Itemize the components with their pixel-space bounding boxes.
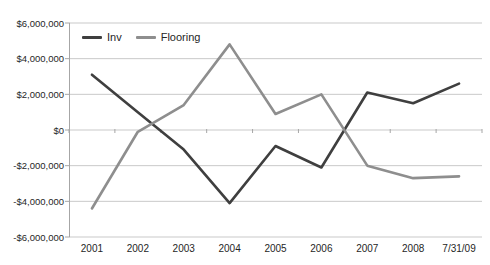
x-axis-tick-label: 2003 <box>173 243 196 254</box>
series-line-flooring <box>92 44 459 208</box>
flooring-line-swatch <box>136 36 156 39</box>
legend-label-inv: Inv <box>107 29 122 45</box>
x-axis-tick-label: 2004 <box>218 243 241 254</box>
inv-line-swatch <box>82 36 102 39</box>
legend-item-inv: Inv <box>82 29 122 45</box>
x-axis-tick-label: 2008 <box>402 243 425 254</box>
x-axis-tick-label: 2006 <box>310 243 333 254</box>
chart-legend: Inv Flooring <box>82 29 200 45</box>
line-chart: $6,000,000$4,000,000$2,000,000$0-$2,000,… <box>0 0 490 265</box>
x-axis-tick-label: 2007 <box>356 243 379 254</box>
x-axis-tick-label: 2002 <box>127 243 150 254</box>
y-axis-tick-label: $0 <box>53 125 64 136</box>
y-axis-tick-label: -$6,000,000 <box>13 232 64 243</box>
legend-item-flooring: Flooring <box>136 29 201 45</box>
y-axis-tick-label: -$2,000,000 <box>13 160 64 171</box>
x-axis-tick-label: 2001 <box>81 243 104 254</box>
y-axis-tick-label: $2,000,000 <box>16 89 64 100</box>
x-axis-tick-label: 2005 <box>264 243 287 254</box>
y-axis-tick-label: -$4,000,000 <box>13 196 64 207</box>
x-axis-tick-label: 7/31/09 <box>442 243 476 254</box>
y-axis-tick-label: $4,000,000 <box>16 53 64 64</box>
legend-label-flooring: Flooring <box>161 29 201 45</box>
y-axis-tick-label: $6,000,000 <box>16 18 64 29</box>
chart-plot-area: $6,000,000$4,000,000$2,000,000$0-$2,000,… <box>0 0 490 265</box>
